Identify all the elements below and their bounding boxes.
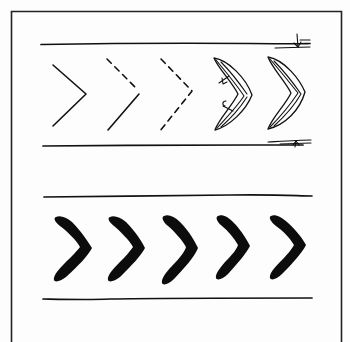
- filled-chevron-2-icon: [108, 216, 145, 281]
- filled-chevron-1-icon: [54, 216, 92, 281]
- sketch-drawing: [0, 0, 350, 342]
- sketch-canvas: Hand-drawn sketch of chevron pattern var…: [0, 0, 350, 342]
- top-dimension-mark-icon: [275, 34, 310, 48]
- chevron-dashed-icon: [160, 59, 192, 131]
- filled-chevron-4-icon: [216, 215, 250, 279]
- chevron-half-dashed-icon: [107, 59, 139, 130]
- top-lane-upper-line: [41, 43, 310, 44]
- bottom-dimension-mark-icon: [268, 140, 311, 147]
- bottom-lane-lower-line: [43, 298, 312, 300]
- top-panel: [41, 34, 311, 147]
- top-lane-lower-line: [43, 145, 303, 146]
- bottom-lane-upper-line: [44, 195, 312, 197]
- chevron-double-line-arrows-icon: [214, 58, 252, 130]
- bottom-panel: [43, 195, 312, 300]
- filled-chevron-3-icon: [162, 215, 198, 284]
- chevron-double-line-icon: [268, 57, 305, 129]
- chevron-solid-outline-icon: [53, 65, 86, 126]
- frame-border: [12, 12, 342, 342]
- filled-chevron-5-icon: [270, 215, 306, 279]
